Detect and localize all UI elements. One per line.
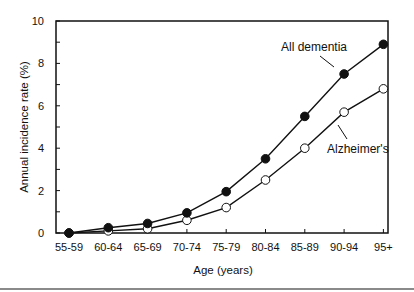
- x-tick-label: 80-84: [251, 241, 279, 253]
- x-tick-label: 65-69: [134, 241, 162, 253]
- filled-marker: [340, 70, 349, 79]
- annotation-all-dementia: All dementia: [281, 40, 347, 67]
- x-tick-label: 95+: [374, 241, 393, 253]
- filled-marker: [222, 187, 231, 196]
- filled-marker: [104, 223, 113, 232]
- open-marker: [340, 108, 349, 117]
- filled-marker: [379, 40, 388, 49]
- filled-marker: [143, 219, 152, 228]
- filled-marker: [301, 112, 310, 121]
- x-tick-label: 55-59: [55, 241, 83, 253]
- y-tick-label: 10: [32, 15, 44, 27]
- open-marker: [301, 144, 310, 153]
- annotation-label-all-dementia: All dementia: [281, 40, 347, 54]
- y-tick-label: 6: [38, 100, 44, 112]
- x-tick-label: 90-94: [330, 241, 358, 253]
- annotation-alzheimers: Alzheimer's: [327, 125, 389, 156]
- leader-line-all-dementia: [320, 56, 334, 67]
- open-marker: [379, 85, 388, 94]
- filled-marker: [183, 209, 192, 218]
- filled-marker: [261, 155, 270, 164]
- series-group: [65, 40, 388, 237]
- filled-marker: [65, 229, 74, 238]
- open-marker: [261, 176, 270, 185]
- x-tick-label: 60-64: [94, 241, 122, 253]
- y-tick-label: 0: [38, 227, 44, 239]
- y-axis-title: Annual incidence rate (%): [18, 61, 30, 193]
- y-tick-label: 8: [38, 57, 44, 69]
- open-marker: [222, 203, 231, 212]
- leader-line-alzheimers: [338, 125, 347, 139]
- x-tick-label: 85-89: [291, 241, 319, 253]
- annotation-label-alzheimers: Alzheimer's: [327, 142, 389, 156]
- bottom-divider: [0, 288, 414, 290]
- incidence-chart: 0246810 55-5960-6465-6970-7475-7980-8485…: [0, 0, 414, 292]
- y-tick-label: 4: [38, 142, 44, 154]
- x-axis-title: Age (years): [193, 264, 253, 276]
- x-tick-label: 75-79: [212, 241, 240, 253]
- y-tick-label: 2: [38, 185, 44, 197]
- x-tick-label: 70-74: [173, 241, 201, 253]
